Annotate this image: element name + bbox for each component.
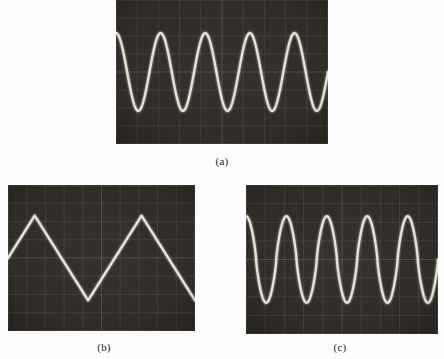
caption-panel-c: (c) <box>310 341 370 353</box>
caption-panel-b: (b) <box>74 341 134 353</box>
oscilloscope-panel-a <box>116 0 328 144</box>
waveform-trace-c <box>246 185 438 334</box>
waveform-trace-b <box>8 185 195 331</box>
caption-panel-a: (a) <box>192 155 252 167</box>
figure-root: (a) (b) (c) <box>0 0 444 359</box>
waveform-trace-a <box>116 0 328 144</box>
oscilloscope-panel-c <box>246 185 438 334</box>
oscilloscope-panel-b <box>8 185 195 331</box>
